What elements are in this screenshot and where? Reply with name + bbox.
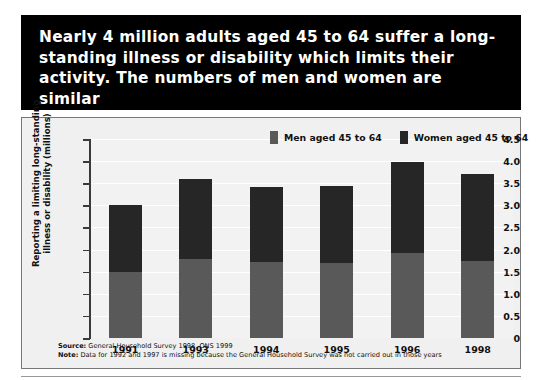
gridline xyxy=(90,183,513,184)
y-axis-tick xyxy=(83,139,90,141)
plot-area xyxy=(90,139,513,338)
gridline xyxy=(90,250,513,251)
y-axis-label: 2.5 xyxy=(464,222,520,233)
y-axis-tick xyxy=(83,205,90,207)
note-label: Note: xyxy=(58,351,78,359)
gridline xyxy=(90,272,513,273)
legend-item-men: Men aged 45 to 64 xyxy=(270,131,382,144)
chart-panel: Reporting a limiting long-standing illne… xyxy=(21,117,521,369)
x-axis-label: 1994 xyxy=(236,344,297,355)
y-axis-tick xyxy=(83,338,90,340)
bar-segment-women[interactable] xyxy=(391,162,424,252)
y-axis-label: 2.0 xyxy=(464,244,520,255)
y-axis-tick xyxy=(83,294,90,296)
bar-group[interactable] xyxy=(391,162,424,338)
bar-segment-women[interactable] xyxy=(179,179,212,259)
x-axis-label: 1995 xyxy=(306,344,367,355)
y-axis-label: 0.5 xyxy=(464,310,520,321)
bar-group[interactable] xyxy=(320,186,353,338)
bar-segment-women[interactable] xyxy=(109,205,142,271)
bottom-divider xyxy=(21,376,521,377)
y-axis-title: Reporting a limiting long-standing illne… xyxy=(31,86,52,282)
x-axis-label: 1998 xyxy=(447,344,508,355)
bar-group[interactable] xyxy=(179,179,212,338)
source-label: Source: xyxy=(58,342,86,350)
legend-swatch-women-icon xyxy=(400,131,408,144)
y-axis-label: 4.5 xyxy=(464,134,520,145)
y-axis-tick xyxy=(83,183,90,185)
bar-segment-men[interactable] xyxy=(109,272,142,338)
legend-swatch-men-icon xyxy=(270,131,278,144)
page-title: Nearly 4 million adults aged 45 to 64 su… xyxy=(39,27,503,109)
gridline xyxy=(90,294,513,295)
y-axis-label: 0 xyxy=(464,333,520,344)
figure-container: Nearly 4 million adults aged 45 to 64 su… xyxy=(0,0,542,380)
title-banner: Nearly 4 million adults aged 45 to 64 su… xyxy=(21,15,521,110)
y-axis-tick xyxy=(83,316,90,318)
bar-segment-men[interactable] xyxy=(391,253,424,338)
gridline xyxy=(90,161,513,162)
y-axis-tick xyxy=(83,227,90,229)
x-axis-label: 1991 xyxy=(95,344,156,355)
y-axis-tick xyxy=(83,250,90,252)
bar-segment-men[interactable] xyxy=(250,262,283,338)
bar-group[interactable] xyxy=(109,205,142,338)
y-axis-tick xyxy=(83,272,90,274)
bar-segment-men[interactable] xyxy=(320,263,353,338)
gridline xyxy=(90,205,513,206)
y-axis-label: 1.0 xyxy=(464,288,520,299)
bar-segment-men[interactable] xyxy=(179,259,212,338)
y-axis-tick xyxy=(83,161,90,163)
bar-segment-women[interactable] xyxy=(250,187,283,262)
x-axis-label: 1996 xyxy=(377,344,438,355)
y-axis-label: 4.0 xyxy=(464,156,520,167)
gridline xyxy=(90,227,513,228)
legend-label-men: Men aged 45 to 64 xyxy=(284,132,382,143)
bar-group[interactable] xyxy=(250,187,283,338)
x-axis-label: 1993 xyxy=(165,344,226,355)
y-axis-label: 3.5 xyxy=(464,178,520,189)
y-axis-label: 3.0 xyxy=(464,200,520,211)
bar-segment-women[interactable] xyxy=(320,186,353,263)
y-axis-label: 1.5 xyxy=(464,266,520,277)
gridline xyxy=(90,316,513,317)
y-axis-line xyxy=(89,139,91,339)
